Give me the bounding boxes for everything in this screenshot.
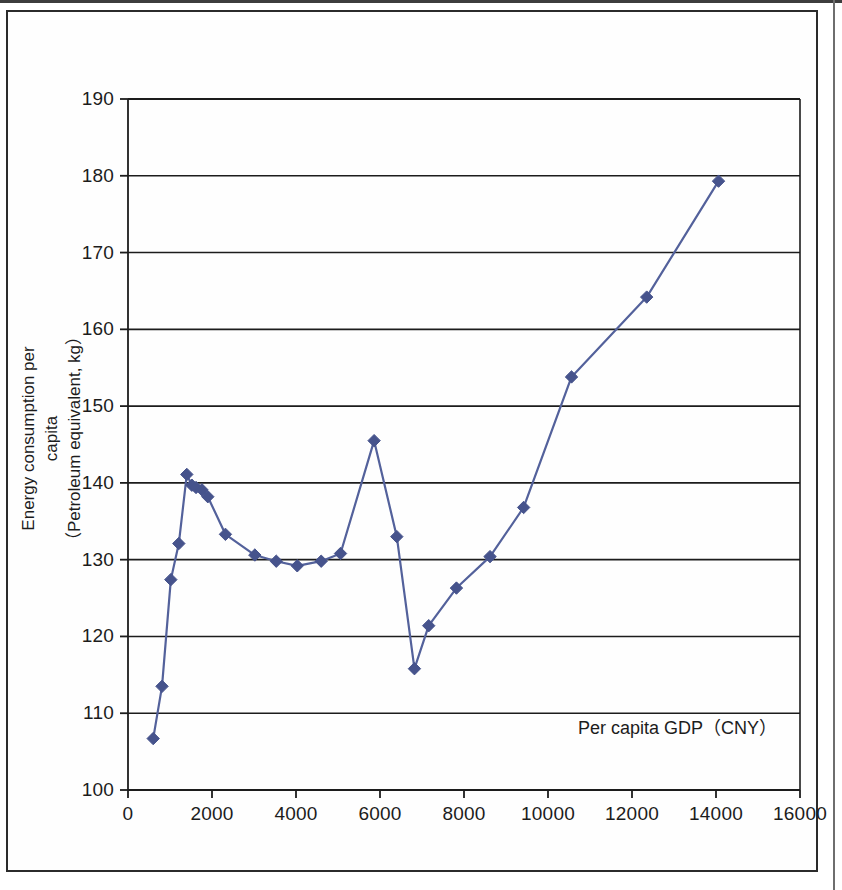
y-tick-label-180: 180: [66, 166, 114, 185]
data-series-markers: [147, 175, 725, 745]
data-point-marker: [517, 501, 529, 513]
x-tick-label-4000: 4000: [251, 804, 341, 823]
data-point-marker: [334, 547, 346, 559]
x-axis-tick-marks: [128, 790, 800, 798]
x-axis-annotation: Per capita GDP（CNY）: [578, 718, 777, 738]
x-tick-label-12000: 12000: [587, 804, 677, 823]
y-tick-label-190: 190: [66, 89, 114, 108]
data-point-marker: [315, 555, 327, 567]
data-point-marker: [147, 732, 159, 744]
data-point-marker: [173, 537, 185, 549]
data-point-marker: [181, 468, 193, 480]
data-point-marker: [165, 573, 177, 585]
data-point-marker: [291, 560, 303, 572]
x-tick-label-14000: 14000: [671, 804, 761, 823]
x-tick-label-2000: 2000: [167, 804, 257, 823]
data-point-marker: [368, 434, 380, 446]
y-tick-label-170: 170: [66, 243, 114, 262]
y-tick-label-100: 100: [66, 780, 114, 799]
data-point-marker: [391, 530, 403, 542]
y-axis-title-line-1: Energy consumption per: [17, 284, 40, 594]
data-point-marker: [156, 680, 168, 692]
data-series-line: [153, 181, 718, 738]
data-point-marker: [408, 662, 420, 674]
line-chart-canvas: [0, 0, 842, 890]
y-axis-title-line-3: （Petroleum equivalent, kg）: [63, 284, 86, 594]
series-line-0: [153, 181, 718, 738]
x-tick-label-10000: 10000: [503, 804, 593, 823]
y-axis-tick-marks: [120, 99, 128, 790]
y-tick-label-120: 120: [66, 626, 114, 645]
x-tick-label-8000: 8000: [419, 804, 509, 823]
y-axis-title-line-2: capita: [40, 284, 63, 594]
x-tick-label-16000: 16000: [755, 804, 842, 823]
plot-area-frame: [128, 99, 800, 790]
y-axis-title: Energy consumption per capita （Petroleum…: [17, 284, 86, 594]
x-tick-label-6000: 6000: [335, 804, 425, 823]
data-point-marker: [712, 175, 724, 187]
data-point-marker: [270, 555, 282, 567]
x-tick-label-0: 0: [83, 804, 173, 823]
y-tick-label-110: 110: [66, 703, 114, 722]
chart-figure: 100110120130140150160170180190 020004000…: [0, 0, 842, 890]
gridlines: [128, 99, 800, 790]
